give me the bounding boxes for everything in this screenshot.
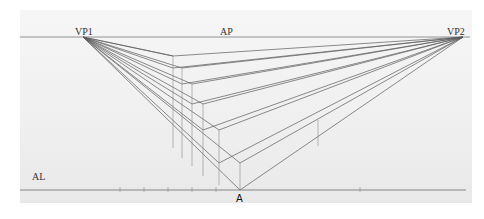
vp2-projection-line <box>203 37 463 104</box>
vp1-projection-line <box>83 37 192 104</box>
al-label: AL <box>32 172 45 182</box>
vp1-projection-line <box>83 37 240 190</box>
vp1-projection-line <box>83 37 203 104</box>
vp1-projection-line <box>83 37 182 68</box>
point-a-label: A <box>236 194 243 204</box>
vp1-projection-line <box>83 37 219 130</box>
vp1-label: VP1 <box>75 27 93 37</box>
perspective-drawing <box>0 0 484 219</box>
perspective-diagram: VP1 VP2 AP AL A <box>0 0 484 219</box>
vp2-projection-line <box>192 37 463 104</box>
vp2-projection-line <box>240 37 463 190</box>
vp1-projection-line <box>83 37 173 68</box>
ap-label: AP <box>220 27 233 37</box>
vp1-projection-line <box>83 37 219 163</box>
vp1-projection-line <box>83 37 240 163</box>
vp2-projection-line <box>219 37 463 163</box>
vp2-projection-line <box>219 37 463 130</box>
vp2-label: VP2 <box>447 27 465 37</box>
vp1-projection-line <box>83 37 192 84</box>
